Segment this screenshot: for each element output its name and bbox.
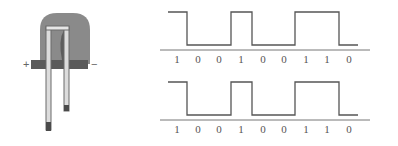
waveform-1-bit: 1 [174,53,180,65]
waveform-1-bit: 0 [346,53,352,65]
minus-label: − [91,58,97,70]
waveform-1-bit: 0 [281,53,287,65]
cathode-lead [64,27,69,111]
waveform-1-bit: 1 [303,53,309,65]
led-illustration: + − [23,13,97,131]
waveform-2: 1 0 0 1 0 0 1 1 0 [160,82,370,135]
waveform-2-bit: 1 [303,123,309,135]
waveform-1-signal [168,12,358,45]
led-internal-bridge [46,26,69,30]
waveform-1-bit: 0 [260,53,266,65]
cathode-tip [64,105,69,111]
anode-lead [46,27,51,130]
led-base-flange [31,60,88,69]
waveform-2-signal [168,82,358,115]
waveform-1-bit: 1 [238,53,244,65]
anode-tip [46,122,51,131]
plus-label: + [23,58,29,70]
waveform-2-bit: 0 [216,123,222,135]
waveform-1: 1 0 0 1 0 0 1 1 0 [160,12,370,65]
waveform-1-bit: 1 [324,53,330,65]
diagram-canvas: + − 1 0 0 1 0 0 1 1 0 1 0 0 1 0 0 1 1 0 [0,0,398,146]
waveform-2-bit: 0 [260,123,266,135]
waveform-2-bit: 1 [174,123,180,135]
waveform-2-bit: 1 [324,123,330,135]
waveform-2-bit: 0 [346,123,352,135]
waveform-1-bit: 0 [216,53,222,65]
waveform-2-bit: 0 [281,123,287,135]
waveform-2-bit: 1 [238,123,244,135]
waveform-2-bit: 0 [195,123,201,135]
waveform-1-bit: 0 [195,53,201,65]
